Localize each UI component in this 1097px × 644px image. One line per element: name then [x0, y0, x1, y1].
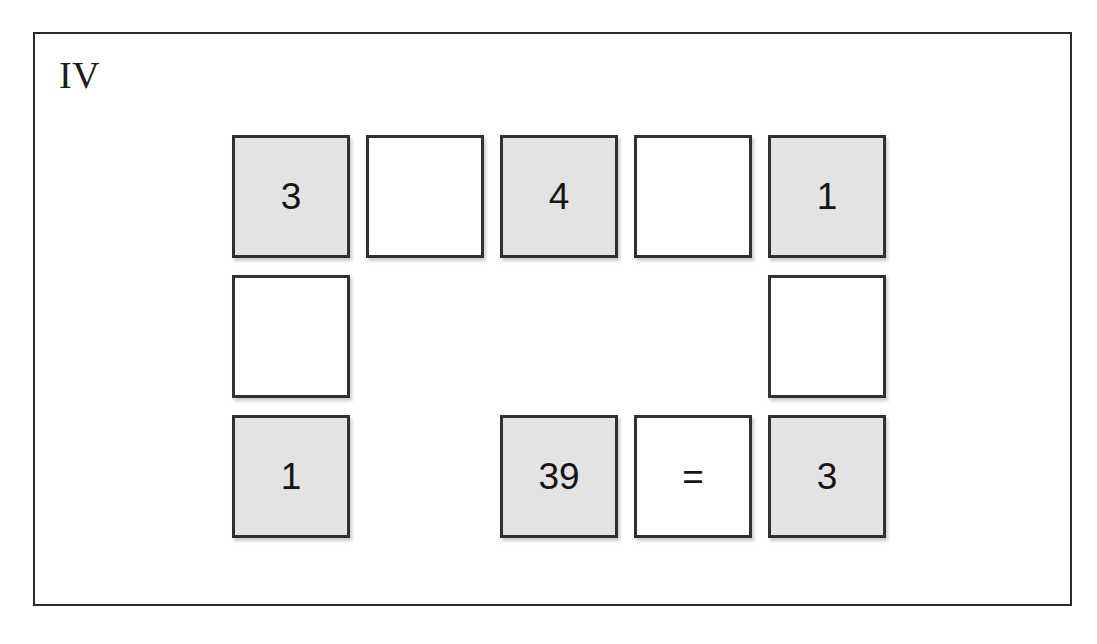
tile-grid: 341139=3: [232, 135, 888, 540]
tile-r2-c1[interactable]: [232, 275, 350, 398]
tile-value: 3: [817, 458, 838, 495]
tile-r1-c2[interactable]: [366, 135, 484, 258]
puzzle-frame: IV 341139=3: [33, 32, 1072, 606]
tile-value: 39: [538, 458, 579, 495]
tile-value: 3: [281, 178, 302, 215]
tile-r1-c5[interactable]: 1: [768, 135, 886, 258]
tile-r1-c1[interactable]: 3: [232, 135, 350, 258]
panel-label: IV: [59, 56, 100, 94]
tile-value: =: [682, 458, 704, 495]
tile-r1-c3[interactable]: 4: [500, 135, 618, 258]
tile-value: 4: [549, 178, 570, 215]
tile-r3-c3[interactable]: 39: [500, 415, 618, 538]
tile-r3-c1[interactable]: 1: [232, 415, 350, 538]
tile-r3-c4[interactable]: =: [634, 415, 752, 538]
tile-r2-c5[interactable]: [768, 275, 886, 398]
tile-value: 1: [281, 458, 302, 495]
tile-r3-c5[interactable]: 3: [768, 415, 886, 538]
tile-r1-c4[interactable]: [634, 135, 752, 258]
tile-value: 1: [817, 178, 838, 215]
